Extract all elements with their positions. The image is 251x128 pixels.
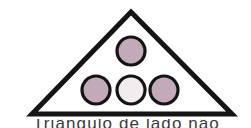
figure-container: Triângulo de lado não — [0, 0, 251, 128]
circle-bottom-left — [82, 76, 110, 104]
figure-caption: Triângulo de lado não — [33, 119, 220, 128]
triangle-figure — [0, 0, 251, 128]
caption-clip: Triângulo de lado não — [0, 119, 251, 128]
circle-bottom-middle — [117, 76, 145, 104]
circle-top — [117, 37, 145, 65]
circle-bottom-right — [150, 76, 178, 104]
